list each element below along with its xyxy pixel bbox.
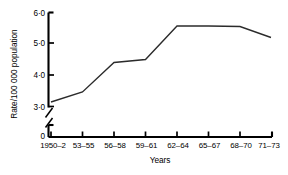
x-tick-label-3: 59–61 — [136, 141, 157, 150]
y-tick-label-5: 5·0 — [33, 39, 45, 48]
y-axis-title: Rate/100 000 population — [9, 29, 19, 119]
data-series-line — [51, 26, 271, 102]
y-axis-break-icon — [46, 108, 53, 118]
x-tick-label-1: 53–55 — [73, 141, 95, 150]
x-tick-label-7: 71–73 — [258, 141, 280, 150]
x-tick-label-4: 62–64 — [167, 141, 189, 150]
x-axis-title: Years — [150, 155, 171, 165]
y-tick-label-3: 3·0 — [33, 103, 45, 112]
x-tick-label-0: 1950–2 — [40, 141, 66, 150]
y-tick-label-6: 6·0 — [33, 9, 45, 18]
chart-canvas: 6·0 5·0 4·0 3·0 0 1950–2 53–55 56–58 59–… — [0, 0, 288, 175]
y-tick-label-4: 4·0 — [33, 71, 45, 80]
x-tick-label-5: 65–67 — [199, 141, 220, 150]
x-tick-label-2: 56–58 — [104, 141, 126, 150]
x-tick-label-6: 68–70 — [230, 141, 252, 150]
line-chart: 6·0 5·0 4·0 3·0 0 1950–2 53–55 56–58 59–… — [0, 0, 288, 175]
